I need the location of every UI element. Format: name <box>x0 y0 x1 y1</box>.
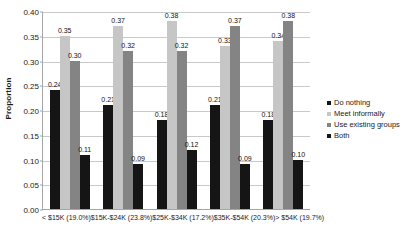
y-axis-tick-label: 0.35 <box>23 32 39 41</box>
bar: 0.32 <box>123 51 133 209</box>
bar-group: 0.210.370.320.09 <box>96 12 149 209</box>
bar: 0.24 <box>50 90 60 209</box>
x-axis-tick-label: > $54K (19.7%) <box>275 214 324 221</box>
bar-value-label: 0.10 <box>292 151 306 159</box>
bar-group: 0.210.330.370.09 <box>203 12 256 209</box>
bar-slot: 0.09 <box>133 12 143 209</box>
y-axis-tick-label: 0.40 <box>23 8 39 17</box>
legend-item[interactable]: Do nothing <box>327 97 413 108</box>
bars-layer: 0.240.350.300.110.210.370.320.090.180.38… <box>43 12 310 209</box>
legend-item[interactable]: Both <box>327 130 413 141</box>
y-axis-title: Proportion <box>4 69 13 129</box>
bar-group: 0.180.340.380.10 <box>257 12 310 209</box>
bar: 0.18 <box>157 120 167 209</box>
plot-area: 0.000.050.100.150.200.250.300.350.40 0.2… <box>42 12 310 210</box>
bar: 0.34 <box>273 41 283 209</box>
bar: 0.37 <box>113 26 123 209</box>
y-axis-tick-label: 0.00 <box>23 206 39 215</box>
bar-value-label: 0.11 <box>78 146 91 154</box>
x-axis-labels: < $15K (19.0%)$15K-$24K (23.8%)$25K-$34K… <box>42 214 310 221</box>
bar-slot: 0.32 <box>123 12 133 209</box>
bar-slot: 0.33 <box>220 12 230 209</box>
y-axis-tick-label: 0.10 <box>23 156 39 165</box>
bar-slot: 0.38 <box>283 12 293 209</box>
bar-slot: 0.10 <box>293 12 303 209</box>
legend-item[interactable]: Use existing groups <box>327 119 413 130</box>
bar-slot: 0.21 <box>103 12 113 209</box>
bar: 0.18 <box>263 120 273 209</box>
bar-slot: 0.18 <box>263 12 273 209</box>
bar: 0.30 <box>70 61 80 210</box>
bar-value-label: 0.09 <box>238 155 252 163</box>
legend-label: Use existing groups <box>334 119 400 130</box>
bar: 0.21 <box>210 105 220 209</box>
bar-slot: 0.12 <box>187 12 197 209</box>
bar-slot: 0.32 <box>177 12 187 209</box>
y-axis-tick-label: 0.05 <box>23 181 39 190</box>
bar: 0.38 <box>283 21 293 209</box>
bar-group: 0.240.350.300.11 <box>43 12 96 209</box>
legend-swatch-icon <box>327 112 331 116</box>
bar-slot: 0.18 <box>157 12 167 209</box>
bar: 0.35 <box>60 36 70 209</box>
bar-slot: 0.24 <box>50 12 60 209</box>
bar: 0.33 <box>220 46 230 209</box>
legend-swatch-icon <box>327 123 331 127</box>
bar-value-label: 0.09 <box>131 155 145 163</box>
bar: 0.09 <box>240 164 250 209</box>
y-axis-tick-label: 0.20 <box>23 107 39 116</box>
legend-swatch-icon <box>327 134 331 138</box>
y-axis-tick-mark <box>40 210 43 211</box>
bar-slot: 0.09 <box>240 12 250 209</box>
bar-slot: 0.34 <box>273 12 283 209</box>
bar-group: 0.180.380.320.12 <box>150 12 203 209</box>
legend: Do nothingMeet informallyUse existing gr… <box>327 97 413 141</box>
bar-slot: 0.11 <box>80 12 90 209</box>
x-axis-tick-label: $15K-$24K (23.8%) <box>91 214 152 221</box>
y-axis-tick-label: 0.25 <box>23 82 39 91</box>
bar: 0.37 <box>230 26 240 209</box>
legend-label: Meet informally <box>334 108 385 119</box>
x-axis-tick-label: < $15K (19.0%) <box>42 214 91 221</box>
bar-slot: 0.35 <box>60 12 70 209</box>
bar: 0.10 <box>293 160 303 210</box>
legend-label: Both <box>334 130 349 141</box>
bar-value-label: 0.12 <box>185 141 199 149</box>
legend-label: Do nothing <box>334 97 370 108</box>
bar-slot: 0.30 <box>70 12 80 209</box>
bar-chart: Proportion 0.000.050.100.150.200.250.300… <box>0 0 414 245</box>
bar: 0.32 <box>177 51 187 209</box>
x-axis-tick-label: $35K-$54K (20.3%) <box>214 214 275 221</box>
y-axis-tick-label: 0.30 <box>23 57 39 66</box>
y-axis-tick-label: 0.15 <box>23 131 39 140</box>
bar: 0.09 <box>133 164 143 209</box>
legend-swatch-icon <box>327 101 331 105</box>
bar-slot: 0.37 <box>230 12 240 209</box>
bar: 0.21 <box>103 105 113 209</box>
legend-item[interactable]: Meet informally <box>327 108 413 119</box>
bar: 0.11 <box>80 155 90 209</box>
x-axis-tick-label: $25K-$34K (17.2%) <box>152 214 213 221</box>
bar: 0.12 <box>187 150 197 209</box>
